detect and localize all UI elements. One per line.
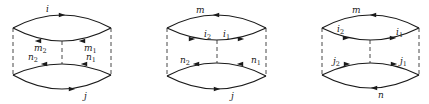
outer-top-label: m xyxy=(196,5,205,15)
inner-bottom-label: n2 xyxy=(180,55,190,67)
inner-top-propagator xyxy=(167,28,266,40)
arrow-icon xyxy=(59,13,65,17)
outer-bottom-propagator xyxy=(167,76,266,89)
outer-bottom-propagator xyxy=(322,75,419,88)
inner-top-propagator xyxy=(13,28,111,41)
outer-top-label: m xyxy=(352,5,361,15)
arrow-icon xyxy=(213,13,219,17)
outer-top-label: i xyxy=(46,4,49,14)
inner-bottom-label: n2 xyxy=(28,52,38,64)
arrow-icon xyxy=(371,86,377,90)
diagram-1: im2m1n2n1j xyxy=(13,4,111,101)
arrow-icon xyxy=(214,87,220,91)
outer-bottom-label: j xyxy=(229,91,234,101)
inner-top-label: m2 xyxy=(34,43,47,55)
arrow-icon xyxy=(370,13,376,17)
outer-top-propagator xyxy=(13,15,111,28)
inner-bottom-label: j2 xyxy=(331,56,340,68)
arrow-icon xyxy=(69,87,75,91)
outer-bottom-propagator xyxy=(13,75,111,89)
inner-bottom-propagator xyxy=(13,64,111,75)
outer-bottom-label: n xyxy=(378,90,384,100)
outer-bottom-label: j xyxy=(82,91,87,101)
inner-top-label: i1 xyxy=(396,27,403,39)
inner-bottom-label: j1 xyxy=(398,56,407,68)
diagram-2: mi2i1n2n1j xyxy=(167,5,266,101)
feynman-diagrams-figure: im2m1n2n1jmi2i1n2n1jmi2i1j2j1n xyxy=(0,0,429,104)
outer-top-propagator xyxy=(167,15,266,28)
diagram-3: mi2i1j2j1n xyxy=(322,5,419,100)
inner-bottom-label: n1 xyxy=(251,55,261,67)
